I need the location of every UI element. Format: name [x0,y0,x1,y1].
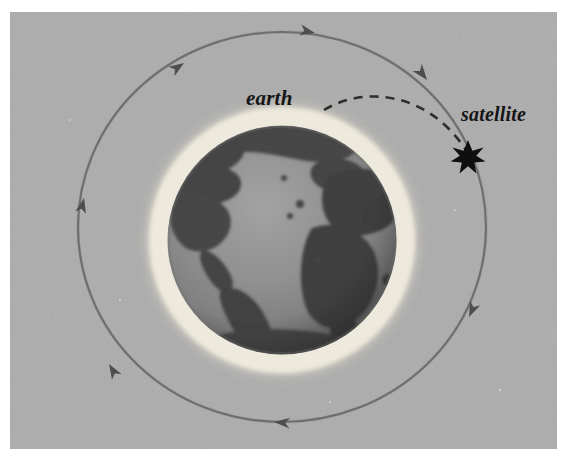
plate [10,12,557,449]
satellite-label: satellite [461,103,526,126]
figure-container: earth satellite [0,0,567,464]
orbit-diagram-canvas [0,0,567,464]
earth-label: earth [246,86,293,111]
